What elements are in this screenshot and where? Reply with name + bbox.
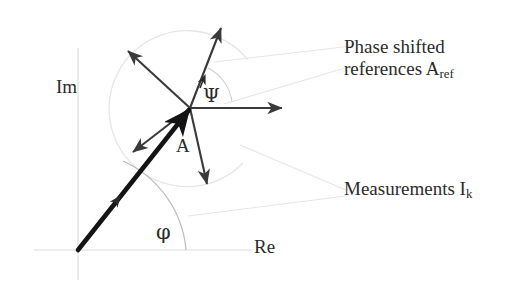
measurements-caption-text: Measurements I <box>344 178 466 199</box>
measurements-caption-subscript: k <box>466 186 472 201</box>
leader-lines-group <box>188 46 352 216</box>
real-axis-label: Re <box>254 236 275 258</box>
leader-line-meas-upper <box>240 145 346 190</box>
references-caption-text: references A <box>344 58 439 79</box>
leader-line-meas-lower <box>188 196 346 216</box>
references-caption-subscript: ref <box>439 66 453 81</box>
vector-a-main <box>78 110 189 250</box>
measurements-caption: Measurements Ik <box>344 178 472 201</box>
leader-line-refs-lower <box>224 66 352 104</box>
vector-a-label: A <box>176 135 190 157</box>
leader-line-refs-upper <box>214 46 352 62</box>
vector-ref-lower-right <box>190 108 207 184</box>
phi-angle-arc-group <box>123 161 186 250</box>
vector-ref-upper-left <box>128 51 190 108</box>
phase-shifted-references-caption: Phase shifted references Aref <box>344 36 454 81</box>
phi-angle-arc <box>123 161 186 250</box>
references-caption-line-1: Phase shifted <box>344 36 454 58</box>
references-caption-line-2: references Aref <box>344 58 454 81</box>
phi-angle-label: φ <box>156 220 171 245</box>
vector-a-group <box>78 110 189 250</box>
imaginary-axis-label: Im <box>56 76 77 98</box>
psi-angle-label: Ψ <box>203 84 220 106</box>
phasor-diagram-figure: Im Re φ Ψ A Phase shifted references Are… <box>0 0 505 287</box>
